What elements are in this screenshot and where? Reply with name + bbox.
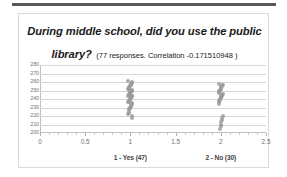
x-minor-tick: [112, 133, 113, 135]
x-tick-label: 0.5: [81, 138, 90, 145]
y-axis-labels: 200210220230240250260270280: [19, 65, 39, 133]
x-minor-tick: [49, 133, 50, 135]
x-major-tick: [130, 133, 131, 136]
x-minor-tick: [203, 133, 204, 135]
gridline: [40, 108, 266, 109]
y-tick-label: 260: [30, 79, 39, 85]
y-tick-label: 210: [30, 122, 39, 128]
x-minor-tick: [103, 133, 104, 135]
x-minor-tick: [58, 133, 59, 135]
y-tick-label: 280: [30, 62, 39, 68]
x-minor-tick: [239, 133, 240, 135]
data-point[interactable]: [217, 102, 221, 106]
x-minor-tick: [94, 133, 95, 135]
category-label-1: 1 - Yes (47): [114, 154, 147, 161]
x-minor-tick: [167, 133, 168, 135]
gridline: [40, 82, 266, 83]
x-minor-tick: [185, 133, 186, 135]
data-point[interactable]: [218, 127, 222, 131]
x-major-tick: [176, 133, 177, 136]
y-tick-label: 240: [30, 96, 39, 102]
x-tick-label: 1.5: [171, 138, 180, 145]
x-minor-tick: [139, 133, 140, 135]
y-tick-label: 230: [30, 105, 39, 111]
chart-title-annotation: (77 responses. Correlation -0.171510948 …: [96, 51, 237, 60]
x-minor-tick: [158, 133, 159, 135]
x-minor-tick: [76, 133, 77, 135]
x-axis-ticks: [40, 133, 266, 137]
screenshot-root: During middle school, did you use the pu…: [0, 0, 287, 177]
plot-wrapper: 200210220230240250260270280 00.511.522.5…: [19, 65, 268, 167]
x-tick-label: 2: [219, 138, 223, 145]
x-axis-labels: 00.511.522.5: [40, 138, 266, 150]
gridline: [40, 125, 266, 126]
gridline: [40, 74, 266, 75]
x-minor-tick: [212, 133, 213, 135]
chart-title: During middle school, did you use the pu…: [27, 19, 262, 64]
x-minor-tick: [194, 133, 195, 135]
gridline: [40, 65, 266, 66]
plot-area[interactable]: [40, 65, 266, 133]
x-minor-tick: [230, 133, 231, 135]
x-minor-tick: [121, 133, 122, 135]
x-tick-label: 1: [129, 138, 133, 145]
x-minor-tick: [248, 133, 249, 135]
x-major-tick: [221, 133, 222, 136]
x-minor-tick: [257, 133, 258, 135]
chart-container[interactable]: During middle school, did you use the pu…: [18, 13, 269, 168]
y-tick-label: 250: [30, 88, 39, 94]
x-minor-tick: [67, 133, 68, 135]
y-tick-label: 200: [30, 130, 39, 136]
x-major-tick: [266, 133, 267, 136]
gridline: [40, 99, 266, 100]
x-major-tick: [40, 133, 41, 136]
x-major-tick: [85, 133, 86, 136]
x-minor-tick: [148, 133, 149, 135]
y-tick-label: 220: [30, 113, 39, 119]
data-point[interactable]: [130, 116, 134, 120]
gridline: [40, 116, 266, 117]
x-tick-label: 0: [38, 138, 42, 145]
x-tick-label: 2.5: [262, 138, 271, 145]
y-tick-label: 270: [30, 71, 39, 77]
document-top-rule: [12, 3, 276, 6]
gridline: [40, 91, 266, 92]
category-labels: 1 - Yes (47)2 - No (30): [40, 154, 266, 166]
category-label-2: 2 - No (30): [205, 154, 236, 161]
